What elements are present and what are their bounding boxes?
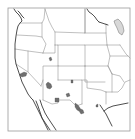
shaded-region-northern-new-mexico (71, 80, 73, 83)
map-frame (8, 8, 130, 131)
shaded-region-southern-arizona (55, 98, 59, 102)
map-canvas (0, 0, 135, 139)
